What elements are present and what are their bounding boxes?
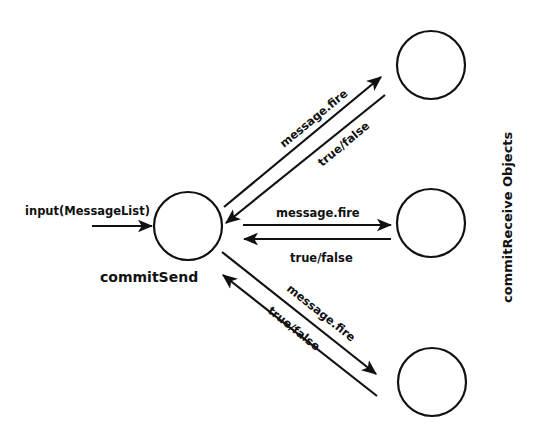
bottom-request-arrow — [222, 252, 376, 374]
commit-send-diagram: input(MessageList) commitSend message.fi… — [0, 0, 542, 444]
receivers-title-label: commitReceive Objects — [500, 131, 515, 303]
input-label: input(MessageList) — [25, 204, 150, 218]
commit-send-label: commitSend — [100, 269, 198, 285]
receiver-bottom-node — [398, 348, 466, 416]
middle-request-label: message.fire — [276, 206, 360, 220]
receiver-top-node — [397, 31, 465, 99]
top-response-arrow — [226, 95, 385, 223]
commit-send-node — [154, 192, 222, 260]
middle-response-label: true/false — [290, 251, 353, 265]
top-request-arrow — [224, 77, 381, 207]
receiver-middle-node — [397, 189, 465, 257]
